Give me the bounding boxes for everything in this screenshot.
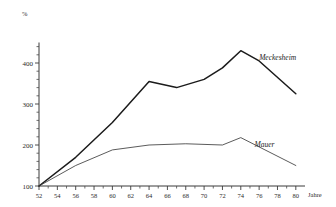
x-axis: 525456586062646668707274767880 bbox=[36, 186, 305, 199]
y-tick-label: 200 bbox=[23, 142, 34, 150]
x-tick-label: 66 bbox=[164, 192, 171, 199]
x-tick-label: 68 bbox=[183, 192, 190, 199]
x-tick-label: 72 bbox=[219, 192, 226, 199]
x-tick-label: 64 bbox=[146, 192, 153, 199]
series-line-meckesheim bbox=[39, 51, 296, 186]
x-tick-label: 78 bbox=[274, 192, 281, 199]
series-annotations: MeckesheimMauer bbox=[254, 53, 297, 149]
x-tick-label: 58 bbox=[91, 192, 98, 199]
data-series-group bbox=[39, 51, 296, 186]
y-axis: 100200300400 bbox=[23, 43, 40, 191]
series-label-meckesheim: Meckesheim bbox=[258, 53, 297, 62]
population-index-line-chart: 100200300400 525456586062646668707274767… bbox=[0, 0, 336, 207]
x-tick-label: 52 bbox=[36, 192, 43, 199]
x-tick-label: 60 bbox=[109, 192, 116, 199]
x-axis-unit-label: Jahre bbox=[308, 191, 322, 198]
x-tick-label: 54 bbox=[54, 192, 61, 199]
x-tick-label: 56 bbox=[72, 192, 79, 199]
x-tick-label: 80 bbox=[293, 192, 300, 199]
y-tick-label: 300 bbox=[23, 101, 34, 109]
x-tick-label: 70 bbox=[201, 192, 208, 199]
series-label-mauer: Mauer bbox=[254, 140, 275, 149]
y-tick-label: 100 bbox=[23, 183, 34, 191]
y-axis-unit-label: % bbox=[22, 10, 28, 17]
x-tick-label: 62 bbox=[127, 192, 134, 199]
x-tick-label: 74 bbox=[238, 192, 245, 199]
chart-canvas: 100200300400 525456586062646668707274767… bbox=[0, 0, 336, 207]
y-tick-label: 400 bbox=[23, 60, 34, 68]
x-tick-label: 76 bbox=[256, 192, 263, 199]
